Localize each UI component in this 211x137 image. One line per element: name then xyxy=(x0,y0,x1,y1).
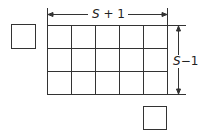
grid-outline xyxy=(48,26,168,95)
height-constant: 1 xyxy=(191,54,199,68)
height-variable: S xyxy=(173,54,181,68)
width-label: S + 1 xyxy=(92,8,125,20)
grid xyxy=(48,26,168,95)
width-constant: 1 xyxy=(117,7,125,21)
height-operator: − xyxy=(181,54,191,68)
left-square xyxy=(12,25,36,49)
bottom-square xyxy=(144,107,167,130)
width-operator: + xyxy=(103,7,113,21)
height-label: S−1 xyxy=(173,55,198,67)
width-variable: S xyxy=(92,7,100,21)
